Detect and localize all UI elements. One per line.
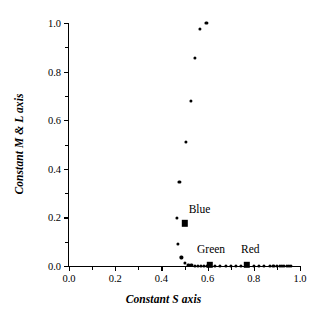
x-tick-major <box>300 267 301 271</box>
y-axis-line <box>68 23 69 267</box>
data-point <box>176 242 179 245</box>
y-tick-label: 0.2 <box>35 212 61 223</box>
y-tick-label: 0.8 <box>35 66 61 77</box>
x-tick-major <box>69 267 70 271</box>
x-axis-title: Constant S axis <box>0 293 327 305</box>
y-tick-major <box>64 120 68 121</box>
data-point <box>193 57 196 60</box>
marker-green <box>207 262 213 268</box>
data-point <box>198 27 201 30</box>
y-tick-minor <box>65 145 68 146</box>
data-point <box>178 181 181 184</box>
data-point <box>183 261 186 264</box>
x-tick-label: 0.4 <box>155 273 168 284</box>
x-tick-minor <box>185 267 186 270</box>
y-tick-minor <box>65 193 68 194</box>
annotation-label-blue: Blue <box>189 203 211 215</box>
y-tick-major <box>64 169 68 170</box>
y-tick-minor <box>65 96 68 97</box>
plot-area: 0.00.20.40.60.81.0 BlueGreenRed <box>69 23 300 266</box>
x-tick-label: 0.0 <box>62 273 75 284</box>
x-tick-label: 0.8 <box>247 273 260 284</box>
y-tick-major <box>64 72 68 73</box>
x-tick-label: 0.2 <box>109 273 122 284</box>
data-point <box>180 256 183 259</box>
annotation-label-red: Red <box>241 243 260 255</box>
x-tick-minor <box>277 267 278 270</box>
annotation-label-green: Green <box>197 243 225 255</box>
marker-red <box>244 262 250 268</box>
x-tick-major <box>161 267 162 271</box>
y-tick-major <box>64 266 68 267</box>
y-axis-title: Constant M & L axis <box>13 69 25 219</box>
data-point <box>189 99 192 102</box>
y-tick-label: 0.4 <box>35 163 61 174</box>
x-tick-minor <box>92 267 93 270</box>
x-tick-major <box>254 267 255 271</box>
x-tick-major <box>115 267 116 271</box>
data-point <box>184 140 187 143</box>
x-tick-minor <box>231 267 232 270</box>
x-tick-minor <box>138 267 139 270</box>
y-tick-label: 1.0 <box>35 18 61 29</box>
data-point <box>205 21 208 24</box>
x-tick-label: 0.6 <box>201 273 214 284</box>
y-tick-minor <box>65 47 68 48</box>
y-tick-minor <box>65 242 68 243</box>
y-tick-label: 0.6 <box>35 115 61 126</box>
scatter-chart-figure: 0.00.20.40.60.81.0 BlueGreenRed 0.00.20.… <box>0 0 327 324</box>
y-tick-major <box>64 217 68 218</box>
y-tick-label: 0.0 <box>35 261 61 272</box>
marker-blue <box>181 220 187 226</box>
x-tick-label: 1.0 <box>293 273 306 284</box>
y-axis-tick-labels: 0.00.20.40.60.81.0 <box>33 23 61 266</box>
y-tick-major <box>64 23 68 24</box>
data-point <box>176 216 179 219</box>
